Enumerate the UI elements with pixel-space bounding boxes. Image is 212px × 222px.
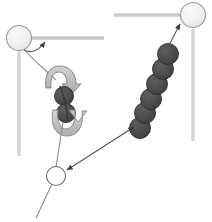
pivot-joint-right — [181, 3, 206, 28]
arrow-displacement-double-headed — [67, 127, 134, 170]
diagram-svg — [0, 0, 212, 222]
diagram-canvas: double-pendulum rotation diagram Two pen… — [0, 0, 212, 222]
tether-free-node-tail — [36, 184, 52, 218]
pivot-joint-left — [7, 26, 32, 51]
free-node-group — [36, 122, 134, 218]
free-node-circle — [47, 167, 66, 186]
